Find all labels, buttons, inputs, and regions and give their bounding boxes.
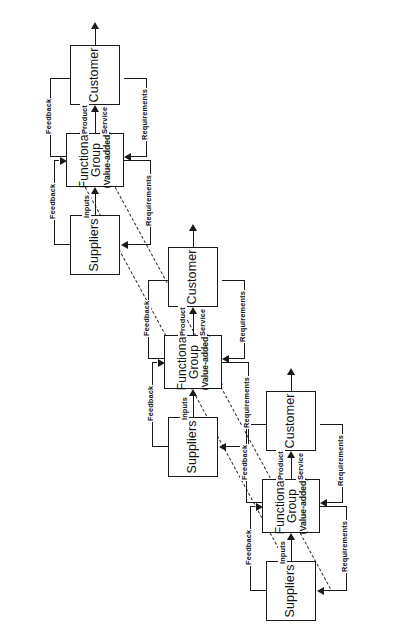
unit2-product-label: Product — [178, 306, 187, 337]
unit1-inputs-arrowhead — [287, 533, 295, 540]
unit2-suppliers-label: Suppliers — [186, 421, 200, 474]
unit3-service-label: Service — [100, 106, 109, 135]
unit3-requirements-upper-label: Requirements — [140, 88, 149, 141]
unit3-customer-output-arrowhead — [91, 22, 99, 29]
unit1-product-label: Product — [276, 450, 285, 481]
unit2-requirements-upper-v1 — [222, 280, 244, 281]
unit1-product-service-arrowhead — [287, 451, 295, 458]
unit2-inputs-line — [193, 396, 194, 417]
unit1-requirements-upper-v2 — [327, 502, 343, 503]
unit3-functional-group-label-line2: Group — [90, 143, 102, 177]
unit3-feedback-upper-label: Feedback — [44, 98, 53, 135]
unit1-requirements-lower-v2 — [324, 590, 347, 591]
unit3-functional-group-box[interactable]: Functional Group (Value-added) — [66, 133, 124, 187]
unit3-feedback-lower-v1 — [54, 244, 71, 245]
unit2-requirements-upper-v2 — [229, 358, 245, 359]
unit3-requirements-upper-arrowhead — [124, 153, 131, 161]
unit3-suppliers-box[interactable]: Suppliers — [70, 215, 120, 275]
unit3-inputs-label: Inputs — [82, 194, 91, 219]
unit1-service-label: Service — [296, 452, 305, 481]
unit3-product-service-line — [95, 112, 96, 133]
figure-page: Suppliers Functional Group (Value-added)… — [0, 0, 394, 625]
unit1-functional-group-label-line3: (Value-added) — [299, 478, 308, 534]
unit3-customer-label: Customer — [88, 48, 102, 103]
unit3-functional-group-label-line3: (Value-added) — [103, 132, 112, 188]
unit3-requirements-lower-label: Requirements — [144, 174, 153, 227]
unit3-suppliers-label: Suppliers — [88, 219, 102, 272]
unit2-feedback-lower-v1 — [152, 446, 169, 447]
unit2-product-service-line — [193, 314, 194, 335]
unit2-feedback-upper-label: Feedback — [142, 300, 151, 337]
unit3-requirements-lower-arrowhead — [121, 241, 128, 249]
unit1-product-service-line — [291, 458, 292, 479]
unit3-product-label: Product — [80, 104, 89, 135]
unit2-functional-group-box[interactable]: Functional Group (Value-added) — [164, 335, 222, 389]
unit2-requirements-lower-arrowhead — [219, 443, 226, 451]
unit1-customer-output-arrowhead — [287, 368, 295, 375]
unit3-feedback-upper-v2 — [50, 78, 70, 79]
unit1-feedback-upper-label: Feedback — [240, 444, 249, 481]
unit2-feedback-upper-v2 — [148, 280, 168, 281]
unit2-service-label: Service — [198, 308, 207, 337]
unit2-suppliers-box[interactable]: Suppliers — [168, 417, 218, 477]
unit1-customer-output-line — [291, 375, 292, 391]
unit1-inputs-line — [291, 540, 292, 561]
unit3-feedback-lower-label: Feedback — [48, 183, 57, 220]
unit1-suppliers-label: Suppliers — [284, 565, 298, 618]
unit2-requirements-lower-label: Requirements — [242, 376, 251, 429]
unit1-functional-group-box[interactable]: Functional Group (Value-added) — [262, 479, 320, 533]
unit3-requirements-upper-v1 — [124, 78, 146, 79]
unit2-requirements-upper-arrowhead — [222, 355, 229, 363]
unit3-customer-box[interactable]: Customer — [70, 45, 120, 105]
unit1-inputs-label: Inputs — [278, 540, 287, 565]
unit2-feedback-lower-label: Feedback — [146, 385, 155, 422]
unit1-customer-box[interactable]: Customer — [266, 391, 316, 451]
figure-canvas: Suppliers Functional Group (Value-added)… — [0, 0, 394, 625]
unit2-product-service-arrowhead — [189, 307, 197, 314]
unit2-inputs-arrowhead — [189, 389, 197, 396]
unit1-feedback-lower-v2 — [250, 506, 255, 507]
unit2-customer-output-arrowhead — [189, 224, 197, 231]
unit1-requirements-lower-arrowhead — [317, 587, 324, 595]
unit2-functional-group-label-line3: (Value-added) — [201, 334, 210, 390]
unit2-feedback-lower-v2 — [152, 362, 157, 363]
food-chain-unit-2: Suppliers Functional Group (Value-added)… — [134, 247, 262, 477]
unit2-customer-label: Customer — [186, 250, 200, 305]
unit1-requirements-upper-v1 — [320, 424, 342, 425]
unit3-inputs-arrowhead — [91, 187, 99, 194]
unit1-feedback-lower-v1 — [250, 590, 267, 591]
unit3-requirements-lower-v2 — [128, 244, 151, 245]
unit3-feedback-lower-v2 — [54, 160, 59, 161]
unit1-functional-group-label-line2: Group — [286, 489, 298, 523]
unit3-requirements-upper-v2 — [131, 156, 147, 157]
unit2-requirements-upper-label: Requirements — [238, 290, 247, 343]
unit3-customer-output-line — [95, 29, 96, 45]
unit2-functional-group-label-line2: Group — [188, 345, 200, 379]
unit2-customer-box[interactable]: Customer — [168, 247, 218, 307]
unit2-inputs-label: Inputs — [180, 396, 189, 421]
unit2-customer-output-line — [193, 231, 194, 247]
unit1-requirements-lower-label: Requirements — [340, 520, 349, 573]
unit3-inputs-line — [95, 194, 96, 215]
unit1-requirements-upper-label: Requirements — [336, 434, 345, 487]
unit1-customer-label: Customer — [284, 394, 298, 449]
unit1-suppliers-box[interactable]: Suppliers — [266, 561, 316, 621]
unit3-product-service-arrowhead — [91, 105, 99, 112]
unit1-feedback-lower-label: Feedback — [244, 529, 253, 566]
unit1-requirements-upper-arrowhead — [320, 499, 327, 507]
